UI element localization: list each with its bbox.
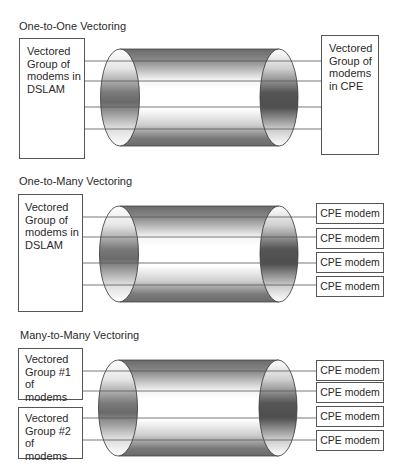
- cpe-modem-box: CPE modem: [316, 276, 384, 297]
- cpe-modem-box: CPE modem: [316, 228, 384, 249]
- cable-one-to-one: [84, 49, 321, 146]
- cable-one-to-many: [82, 206, 316, 302]
- section-title-one-to-many: One-to-Many Vectoring: [19, 175, 132, 187]
- cpe-modem-box: CPE modem: [316, 406, 384, 427]
- vectored-group-2-box: Vectored Group #2 of modems: [18, 407, 83, 459]
- cable-many-to-many: [82, 360, 316, 456]
- dslam-vectored-group-box: Vectored Group of modems in DSLAM: [19, 38, 85, 159]
- dslam-vectored-group-box: Vectored Group of modems in DSLAM: [18, 194, 83, 312]
- cpe-modem-box: CPE modem: [316, 252, 384, 273]
- section-title-many-to-many: Many-to-Many Vectoring: [20, 329, 139, 341]
- vectored-group-1-box: Vectored Group #1 of modems: [18, 348, 83, 400]
- cpe-modem-box: CPE modem: [316, 382, 384, 403]
- section-title-one-to-one: One-to-One Vectoring: [19, 20, 126, 32]
- cpe-vectored-group-box: Vectored Group of modems in CPE: [321, 35, 379, 155]
- cpe-modem-box: CPE modem: [316, 360, 384, 381]
- cpe-modem-box: CPE modem: [316, 203, 384, 224]
- cpe-modem-box: CPE modem: [316, 430, 384, 451]
